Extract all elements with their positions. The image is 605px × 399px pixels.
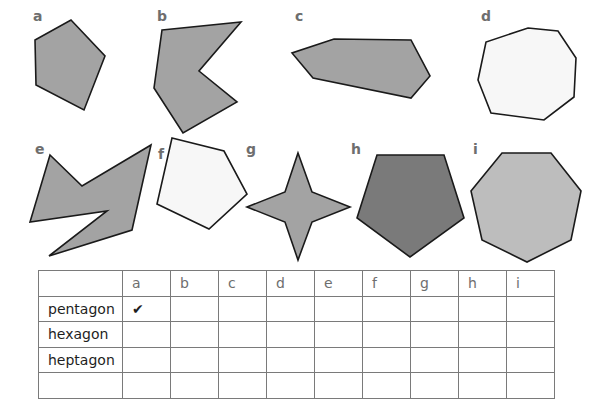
column-header-h: h bbox=[459, 271, 507, 297]
check-cell-a[interactable] bbox=[123, 373, 171, 399]
column-header-a: a bbox=[123, 271, 171, 297]
classification-table: a b c d e f g h i pentagon ✔ hexagon hep… bbox=[38, 270, 555, 399]
column-header-e: e bbox=[315, 271, 363, 297]
check-cell-i[interactable] bbox=[507, 373, 555, 399]
column-header-d: d bbox=[267, 271, 315, 297]
shape-h-pentagon bbox=[357, 155, 464, 257]
row-label: hexagon bbox=[39, 322, 123, 348]
check-cell-h[interactable] bbox=[459, 296, 507, 322]
table-row-partial bbox=[39, 373, 555, 399]
shape-c-hexagon bbox=[292, 39, 430, 98]
check-cell-h[interactable] bbox=[459, 373, 507, 399]
check-cell-d[interactable] bbox=[267, 296, 315, 322]
check-cell-i[interactable] bbox=[507, 296, 555, 322]
shape-label-h: h bbox=[351, 142, 361, 156]
check-cell-i[interactable] bbox=[507, 347, 555, 373]
check-cell-c[interactable] bbox=[219, 322, 267, 348]
check-cell-i[interactable] bbox=[507, 322, 555, 348]
shapes-canvas bbox=[0, 0, 605, 265]
check-cell-d[interactable] bbox=[267, 373, 315, 399]
shape-label-f: f bbox=[158, 147, 164, 161]
shape-label-b: b bbox=[157, 9, 167, 23]
check-cell-f[interactable] bbox=[363, 347, 411, 373]
shape-i-heptagon bbox=[471, 153, 581, 262]
check-cell-c[interactable] bbox=[219, 296, 267, 322]
shape-e-concave-heptagon bbox=[30, 145, 151, 256]
check-cell-e[interactable] bbox=[315, 296, 363, 322]
shape-label-e: e bbox=[35, 142, 45, 156]
check-cell-g[interactable] bbox=[411, 322, 459, 348]
shape-label-i: i bbox=[473, 142, 478, 156]
check-cell-d[interactable] bbox=[267, 347, 315, 373]
shape-g-star bbox=[247, 153, 350, 260]
row-label: heptagon bbox=[39, 347, 123, 373]
column-header-c: c bbox=[219, 271, 267, 297]
table-row-heptagon: heptagon bbox=[39, 347, 555, 373]
table-row-hexagon: hexagon bbox=[39, 322, 555, 348]
check-cell-h[interactable] bbox=[459, 322, 507, 348]
check-cell-a[interactable] bbox=[123, 347, 171, 373]
check-cell-b[interactable] bbox=[171, 373, 219, 399]
corner-cell bbox=[39, 271, 123, 297]
column-header-f: f bbox=[363, 271, 411, 297]
check-cell-e[interactable] bbox=[315, 373, 363, 399]
check-cell-g[interactable] bbox=[411, 373, 459, 399]
column-header-b: b bbox=[171, 271, 219, 297]
shape-d-octagon bbox=[478, 28, 576, 120]
shape-b-concave-hexagon bbox=[154, 22, 241, 133]
table-row-pentagon: pentagon ✔ bbox=[39, 296, 555, 322]
check-cell-e[interactable] bbox=[315, 347, 363, 373]
check-cell-a[interactable] bbox=[123, 322, 171, 348]
shape-label-g: g bbox=[246, 142, 256, 156]
shape-label-d: d bbox=[481, 9, 491, 23]
check-cell-f[interactable] bbox=[363, 296, 411, 322]
check-cell-g[interactable] bbox=[411, 296, 459, 322]
check-cell-h[interactable] bbox=[459, 347, 507, 373]
check-cell-a[interactable]: ✔ bbox=[123, 296, 171, 322]
check-cell-b[interactable] bbox=[171, 296, 219, 322]
check-cell-b[interactable] bbox=[171, 322, 219, 348]
check-cell-g[interactable] bbox=[411, 347, 459, 373]
shape-f-pentagon bbox=[157, 138, 247, 229]
row-label: pentagon bbox=[39, 296, 123, 322]
check-cell-c[interactable] bbox=[219, 373, 267, 399]
table-header-row: a b c d e f g h i bbox=[39, 271, 555, 297]
column-header-i: i bbox=[507, 271, 555, 297]
check-cell-f[interactable] bbox=[363, 322, 411, 348]
check-cell-c[interactable] bbox=[219, 347, 267, 373]
shape-label-c: c bbox=[295, 9, 303, 23]
shape-label-a: a bbox=[33, 9, 42, 23]
row-label bbox=[39, 373, 123, 399]
shape-a-pentagon bbox=[35, 20, 105, 110]
column-header-g: g bbox=[411, 271, 459, 297]
check-cell-e[interactable] bbox=[315, 322, 363, 348]
check-cell-b[interactable] bbox=[171, 347, 219, 373]
check-cell-f[interactable] bbox=[363, 373, 411, 399]
check-cell-d[interactable] bbox=[267, 322, 315, 348]
